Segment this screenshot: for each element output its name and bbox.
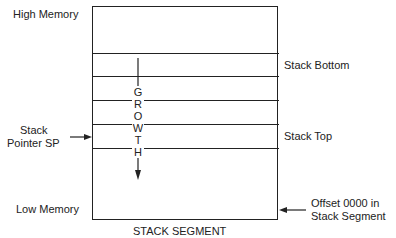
offset-label-line1: Offset 0000 in xyxy=(311,197,379,210)
growth-letter: W xyxy=(132,122,144,134)
stack-pointer-label-line2: Pointer SP xyxy=(7,137,60,150)
stack-pointer-label-line1: Stack xyxy=(20,124,48,137)
offset-arrow-head-icon xyxy=(279,207,287,213)
diagram-caption: STACK SEGMENT xyxy=(133,225,226,238)
growth-arrow-head-icon xyxy=(135,170,141,180)
stack-bottom-label: Stack Bottom xyxy=(284,59,349,72)
stack-top-label: Stack Top xyxy=(284,130,332,143)
growth-letter: H xyxy=(132,146,144,158)
growth-letter: R xyxy=(132,98,144,110)
high-memory-label: High Memory xyxy=(13,8,78,21)
low-memory-label: Low Memory xyxy=(16,203,79,216)
growth-letter: G xyxy=(132,86,144,98)
offset-label-line2: Stack Segment xyxy=(311,210,386,223)
growth-letter: O xyxy=(132,110,144,122)
growth-letter: T xyxy=(132,134,144,146)
sp-arrow-head-icon xyxy=(84,134,92,140)
